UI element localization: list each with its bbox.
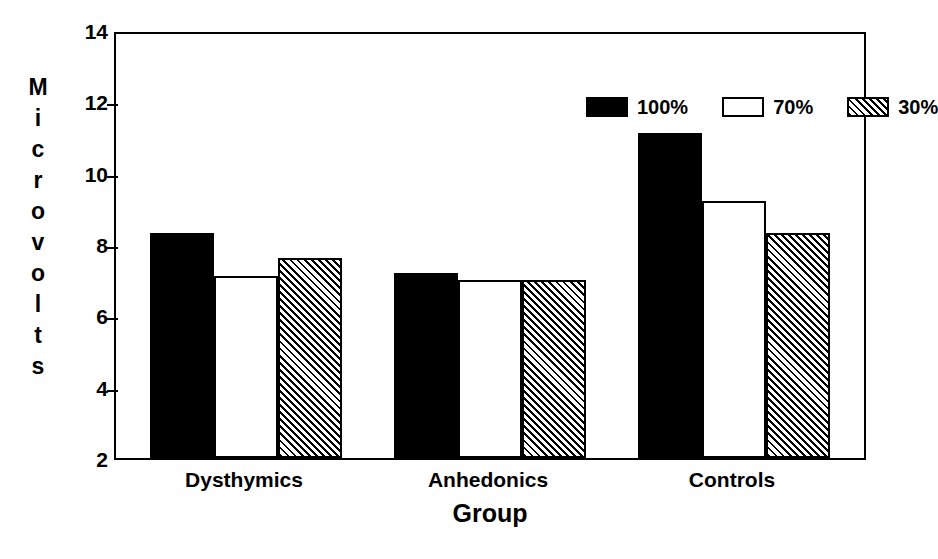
y-axis-tick-labels: 2468101214 [58, 0, 108, 559]
y-axis-title-letter: i [18, 103, 58, 134]
y-axis-title-letter: t [18, 320, 58, 351]
legend-swatch-open [722, 97, 764, 117]
plot-area: 100%70%30% [114, 32, 866, 460]
y-axis-tick-label: 14 [62, 21, 108, 42]
legend-swatch-hatch [847, 97, 889, 117]
bar [150, 233, 214, 458]
chart-legend: 100%70%30% [586, 92, 938, 122]
x-axis-tick-label: Controls [622, 468, 842, 492]
y-axis-tick-mark [107, 390, 118, 392]
bar [638, 133, 702, 458]
y-axis-tick-mark [107, 318, 118, 320]
y-axis-title-letter: o [18, 196, 58, 227]
bar [458, 280, 522, 458]
y-axis-title-letter: o [18, 258, 58, 289]
y-axis-title-letter: r [18, 165, 58, 196]
y-axis-tick-label: 2 [62, 449, 108, 470]
y-axis-title-letter: l [18, 289, 58, 320]
y-axis-title-letter: v [18, 227, 58, 258]
legend-label: 30% [898, 97, 938, 117]
y-axis-tick-mark [107, 176, 118, 178]
bar [214, 276, 278, 458]
bar [278, 258, 342, 458]
legend-item: 30% [847, 97, 938, 117]
y-axis-tick-label: 8 [62, 235, 108, 256]
bar [702, 201, 766, 458]
y-axis-tick-label: 6 [62, 306, 108, 327]
y-axis-title-letter: c [18, 134, 58, 165]
legend-label: 100% [637, 97, 688, 117]
y-axis-tick-label: 10 [62, 164, 108, 185]
bar [394, 273, 458, 458]
bar [522, 280, 586, 458]
y-axis-title-letter: s [18, 351, 58, 382]
x-axis-tick-label: Anhedonics [378, 468, 598, 492]
legend-swatch-solid [586, 97, 628, 117]
bar [766, 233, 830, 458]
x-axis-tick-label: Dysthymics [134, 468, 354, 492]
legend-item: 100% [586, 97, 688, 117]
y-axis-tick-mark [107, 104, 118, 106]
legend-label: 70% [773, 97, 813, 117]
y-axis-title-letter: M [18, 72, 58, 103]
y-axis-tick-label: 4 [62, 378, 108, 399]
y-axis-title: Microvolts [18, 72, 58, 382]
x-axis-title: Group [114, 499, 866, 527]
legend-item: 70% [722, 97, 813, 117]
y-axis-tick-label: 12 [62, 92, 108, 113]
y-axis-tick-mark [107, 247, 118, 249]
